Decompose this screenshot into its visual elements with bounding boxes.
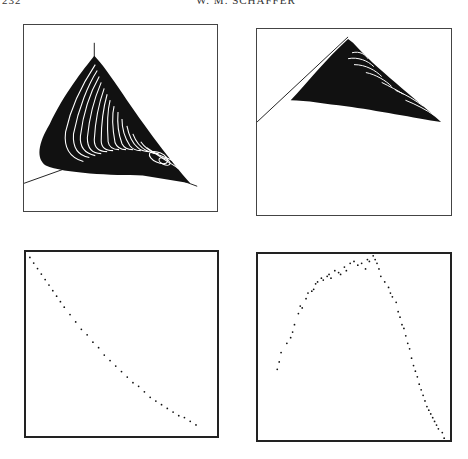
data-point bbox=[290, 337, 292, 339]
data-point bbox=[353, 261, 355, 263]
data-point bbox=[418, 383, 420, 385]
data-point bbox=[414, 370, 416, 372]
data-point bbox=[344, 266, 346, 268]
attractor-3d-rotated-panel bbox=[256, 28, 452, 216]
return-map-panel bbox=[256, 252, 452, 442]
data-point bbox=[178, 415, 180, 417]
data-point bbox=[280, 352, 282, 354]
data-point bbox=[292, 331, 294, 333]
data-point bbox=[441, 432, 443, 434]
data-point bbox=[144, 391, 146, 393]
attractor-3d-panel bbox=[23, 24, 218, 212]
data-point bbox=[44, 279, 46, 281]
data-point bbox=[132, 382, 134, 384]
data-point bbox=[395, 301, 397, 303]
data-point bbox=[103, 354, 105, 356]
data-point bbox=[60, 301, 62, 303]
data-point bbox=[420, 389, 422, 391]
data-point bbox=[172, 411, 174, 413]
data-point bbox=[430, 413, 432, 415]
data-point bbox=[407, 342, 409, 344]
data-point bbox=[149, 396, 151, 398]
attractor-flat-plot bbox=[257, 29, 451, 215]
data-point bbox=[37, 268, 39, 270]
data-point bbox=[33, 262, 35, 264]
data-point bbox=[384, 281, 386, 283]
data-point bbox=[86, 334, 88, 336]
data-point bbox=[48, 284, 50, 286]
data-point bbox=[40, 273, 42, 275]
data-point bbox=[301, 307, 303, 309]
data-point bbox=[121, 371, 123, 373]
data-point bbox=[98, 347, 100, 349]
data-point bbox=[315, 283, 317, 285]
data-point bbox=[428, 409, 430, 411]
data-point bbox=[372, 255, 374, 257]
data-point bbox=[126, 376, 128, 378]
data-point bbox=[443, 437, 445, 439]
page-number: 232 bbox=[2, 0, 22, 6]
data-point bbox=[374, 259, 376, 261]
data-point bbox=[75, 321, 77, 323]
data-point bbox=[399, 316, 401, 318]
data-point bbox=[411, 357, 413, 359]
data-point bbox=[29, 257, 31, 259]
poincare-section-panel bbox=[24, 250, 219, 438]
data-point bbox=[361, 262, 363, 264]
oblique-axis bbox=[24, 168, 66, 183]
data-point bbox=[56, 295, 58, 297]
data-point bbox=[109, 360, 111, 362]
data-point bbox=[138, 385, 140, 387]
data-point bbox=[52, 290, 54, 292]
running-header: 232 W. M. SCHAFFER bbox=[0, 0, 468, 6]
data-point bbox=[424, 400, 426, 402]
data-point bbox=[436, 424, 438, 426]
attractor-band bbox=[291, 39, 441, 122]
running-head-author: W. M. SCHAFFER bbox=[196, 0, 296, 6]
data-point bbox=[376, 262, 378, 264]
data-point bbox=[321, 277, 323, 279]
data-point bbox=[276, 368, 278, 370]
data-point bbox=[184, 417, 186, 419]
data-point bbox=[388, 287, 390, 289]
data-point bbox=[307, 292, 309, 294]
data-point bbox=[326, 275, 328, 277]
data-point bbox=[189, 420, 191, 422]
data-point bbox=[413, 365, 415, 367]
data-point bbox=[322, 279, 324, 281]
data-point bbox=[409, 348, 411, 350]
data-point bbox=[432, 417, 434, 419]
data-point bbox=[166, 408, 168, 410]
data-point bbox=[401, 324, 403, 326]
data-point bbox=[349, 262, 351, 264]
data-point bbox=[345, 270, 347, 272]
data-point bbox=[367, 259, 369, 261]
data-point bbox=[391, 296, 393, 298]
data-point bbox=[334, 270, 336, 272]
poincare-scatter bbox=[26, 252, 217, 436]
data-point bbox=[63, 306, 65, 308]
data-point bbox=[368, 261, 370, 263]
data-point bbox=[305, 298, 307, 300]
data-point bbox=[298, 313, 300, 315]
data-point bbox=[92, 341, 94, 343]
data-point bbox=[416, 376, 418, 378]
data-point bbox=[69, 314, 71, 316]
data-point bbox=[286, 342, 288, 344]
data-point bbox=[313, 288, 315, 290]
attractor-cone-plot bbox=[24, 25, 217, 211]
data-point bbox=[357, 264, 359, 266]
data-point bbox=[294, 324, 296, 326]
attractor-band bbox=[39, 56, 190, 184]
data-point bbox=[161, 404, 163, 406]
data-point bbox=[397, 311, 399, 313]
data-point bbox=[115, 365, 117, 367]
data-point bbox=[155, 400, 157, 402]
data-point bbox=[390, 292, 392, 294]
data-point bbox=[403, 328, 405, 330]
data-point bbox=[299, 305, 301, 307]
data-point bbox=[405, 335, 407, 337]
return-map-scatter bbox=[258, 254, 450, 440]
data-point bbox=[380, 275, 382, 277]
data-point bbox=[434, 421, 436, 423]
